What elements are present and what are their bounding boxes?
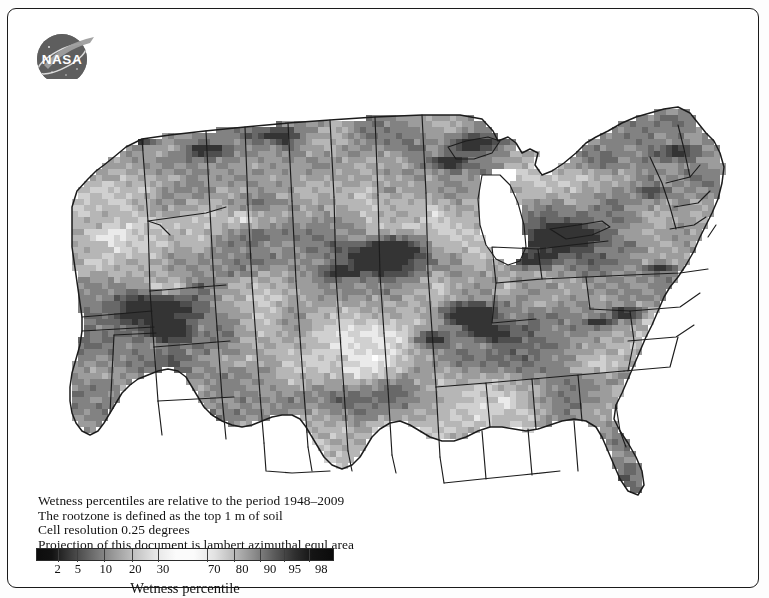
colorbar-tickmark: [309, 549, 310, 562]
colorbar-tick-2: 2: [55, 562, 61, 577]
colorbar-tick-80: 80: [236, 562, 249, 577]
colorbar-tick-95: 95: [289, 562, 302, 577]
colorbar-tickmark: [58, 549, 59, 562]
colorbar-tickmark: [132, 549, 133, 562]
colorbar-tick-90: 90: [264, 562, 277, 577]
colorbar-tick-labels: 2 5 10 20 30 70 80 90 95 98: [36, 562, 346, 578]
colorbar-legend: 2 5 10 20 30 70 80 90 95 98 Wetness perc…: [36, 548, 346, 597]
lake-erie-ontario: [550, 221, 610, 239]
caption-line-3: Cell resolution 0.25 degrees: [38, 523, 468, 538]
colorbar-tickmark: [104, 549, 105, 562]
colorbar-axis-label: Wetness percentile: [36, 580, 334, 597]
colorbar-tick-70: 70: [208, 562, 221, 577]
colorbar-tickmark: [77, 549, 78, 562]
colorbar-tickmark: [207, 549, 208, 562]
nasa-logo-wordmark: NASA: [42, 52, 83, 67]
colorbar-tickmark: [284, 549, 285, 562]
colorbar-tick-98: 98: [315, 562, 328, 577]
caption-block: Wetness percentiles are relative to the …: [38, 494, 468, 552]
colorbar-tick-5: 5: [75, 562, 81, 577]
lake-superior: [448, 137, 500, 159]
colorbar-tick-30: 30: [157, 562, 170, 577]
conus-outline: [70, 107, 724, 495]
figure-frame: NASA: [7, 8, 759, 588]
colorbar-tickmark: [234, 549, 235, 562]
lake-michigan: [478, 175, 526, 265]
colorbar-gradient: [36, 548, 334, 561]
caption-line-2: The rootzone is defined as the top 1 m o…: [38, 509, 468, 524]
colorbar-tickmark: [158, 549, 159, 562]
state-boundaries-layer: [30, 79, 746, 499]
colorbar-tickmark: [260, 549, 261, 562]
colorbar-tick-10: 10: [99, 562, 112, 577]
map-area: [30, 79, 746, 499]
caption-line-1: Wetness percentiles are relative to the …: [38, 494, 468, 509]
colorbar-tick-20: 20: [129, 562, 142, 577]
